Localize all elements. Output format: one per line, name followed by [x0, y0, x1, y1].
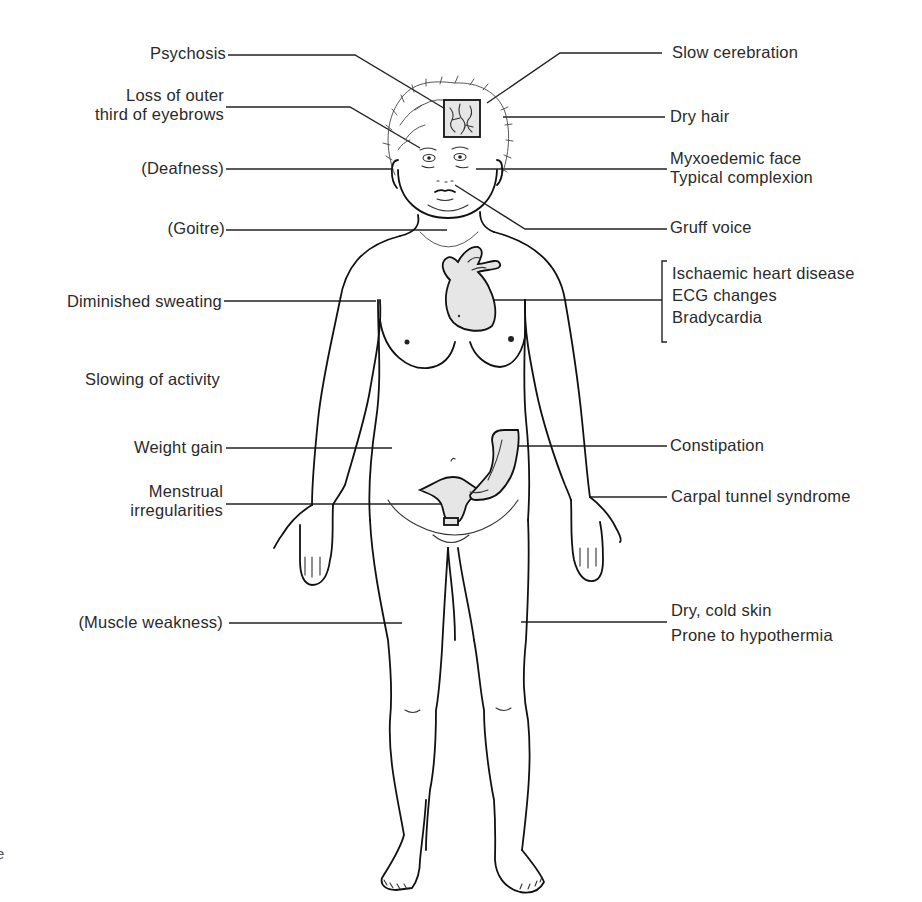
- label-line: Weight gain: [134, 438, 223, 457]
- label-line: (Goitre): [167, 219, 225, 238]
- leader-lines: [224, 53, 667, 623]
- label-heart-group: Ischaemic heart disease ECG changes Brad…: [672, 264, 855, 327]
- label-gruff-voice: Gruff voice: [670, 218, 752, 237]
- label-weight-gain: Weight gain: [134, 438, 223, 457]
- label-line: Carpal tunnel syndrome: [671, 487, 851, 506]
- label-line: Myxoedemic face: [670, 149, 813, 168]
- label-muscle-weakness: (Muscle weakness): [78, 613, 223, 632]
- label-line: Bradycardia: [672, 308, 855, 327]
- label-slow-cerebration: Slow cerebration: [672, 43, 798, 62]
- label-dry-hair: Dry hair: [670, 107, 729, 126]
- label-line: (Muscle weakness): [78, 613, 223, 632]
- label-dry-cold-skin: Dry, cold skin Prone to hypothermia: [671, 601, 833, 645]
- label-line: Loss of outer: [95, 86, 224, 105]
- cropped-text-fragment: e: [0, 844, 5, 863]
- label-line: Diminished sweating: [67, 292, 222, 311]
- label-goitre: (Goitre): [167, 219, 225, 238]
- label-line: ECG changes: [672, 286, 855, 305]
- label-menstrual-irregularities: Menstrual irregularities: [130, 482, 223, 520]
- label-line: Slow cerebration: [672, 43, 798, 62]
- label-slowing-of-activity: Slowing of activity: [85, 370, 220, 389]
- label-line: Dry, cold skin: [671, 601, 833, 620]
- label-line: (Deafness): [141, 159, 224, 178]
- label-line: Gruff voice: [670, 218, 752, 237]
- label-line: Psychosis: [150, 44, 226, 63]
- label-line: Menstrual: [130, 482, 223, 501]
- label-psychosis: Psychosis: [150, 44, 226, 63]
- label-line: Prone to hypothermia: [671, 626, 833, 645]
- label-line: Dry hair: [670, 107, 729, 126]
- label-line: Ischaemic heart disease: [672, 264, 855, 283]
- label-deafness: (Deafness): [141, 159, 224, 178]
- label-myxoedemic-face: Myxoedemic face Typical complexion: [670, 149, 813, 187]
- label-line: Constipation: [670, 436, 764, 455]
- label-constipation: Constipation: [670, 436, 764, 455]
- label-line: third of eyebrows: [95, 105, 224, 124]
- label-diminished-sweating: Diminished sweating: [67, 292, 222, 311]
- label-eyebrows: Loss of outer third of eyebrows: [95, 86, 224, 124]
- hypothyroidism-diagram: Psychosis Loss of outer third of eyebrow…: [0, 0, 922, 902]
- torso-drawing: [274, 232, 621, 640]
- head-drawing: [383, 76, 513, 247]
- label-line: Slowing of activity: [85, 370, 220, 389]
- label-line: irregularities: [130, 501, 223, 520]
- label-carpal-tunnel-syndrome: Carpal tunnel syndrome: [671, 487, 851, 506]
- legs-drawing: [370, 520, 544, 893]
- label-line: Typical complexion: [670, 168, 813, 187]
